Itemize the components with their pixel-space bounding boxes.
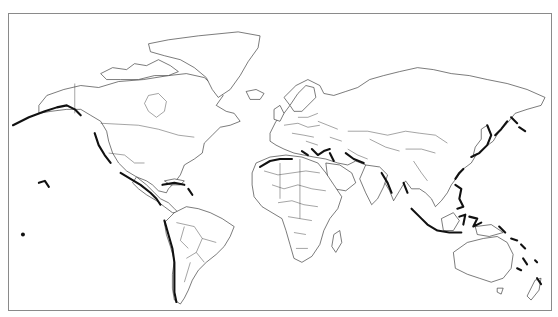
world-map-frame [8,13,552,311]
highlight-pacific-island [21,233,25,237]
north-america [39,32,264,213]
world-map [9,14,551,310]
highlight-vanuatu-fiji-tonga [517,258,537,270]
land-madagascar [332,231,342,253]
highlight-philippines [455,185,463,209]
land-iceland [246,89,264,99]
land-australia [453,236,513,282]
land-tasmania [497,288,503,294]
cropped-caption [0,0,558,3]
land-india [360,165,388,205]
land-north-america [39,74,240,193]
highlight-hawaii [39,181,49,187]
land-borneo [441,213,459,231]
highlight-sulawesi-moluccas [459,215,481,227]
oceania [441,213,541,300]
